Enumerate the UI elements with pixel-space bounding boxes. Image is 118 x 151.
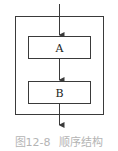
figure-title: 顺序结构 [59,136,103,149]
figure-number: 图12-8 [15,136,51,149]
sequence-structure-diagram: A B [0,0,118,151]
block-a-label: A [55,42,65,55]
figure-caption: 图12-8顺序结构 [0,133,118,149]
block-b-label: B [55,87,63,100]
